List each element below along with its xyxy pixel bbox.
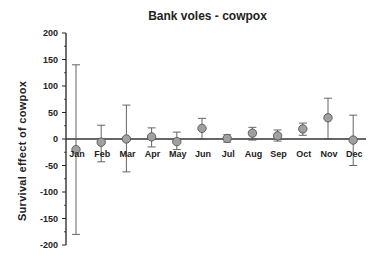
data-point-mar — [122, 105, 130, 172]
x-category-label: Oct — [296, 149, 311, 159]
data-point-nov — [324, 98, 332, 139]
y-tick-label: 0 — [53, 134, 58, 144]
x-category-label: Nov — [320, 149, 337, 159]
y-tick-label: 50 — [48, 108, 58, 118]
x-category-label: Apr — [145, 149, 161, 159]
data-points — [72, 65, 358, 235]
x-category-label: Feb — [94, 149, 111, 159]
y-tick-label: -200 — [40, 240, 58, 250]
x-category-label: May — [169, 149, 187, 159]
data-point-jun — [198, 118, 206, 139]
x-category-label: Sep — [270, 149, 287, 159]
y-axis: 200150100500-50-100-150-200 — [40, 28, 66, 250]
x-category-label: Dec — [346, 149, 363, 159]
x-category-label: Aug — [245, 149, 263, 159]
data-point-may — [173, 132, 181, 149]
x-category-label: Mar — [119, 149, 136, 159]
y-tick-label: -50 — [45, 161, 58, 171]
y-tick-label: -150 — [40, 214, 58, 224]
data-point-aug — [248, 127, 256, 140]
data-point-apr — [147, 128, 155, 147]
y-tick-label: -100 — [40, 187, 58, 197]
x-category-labels: JanFebMarAprMayJunJulAugSepOctNovDec — [69, 149, 362, 159]
y-tick-label: 200 — [43, 28, 58, 38]
data-point-jul — [223, 134, 231, 142]
x-category-label: Jun — [195, 149, 211, 159]
plot-area: 200150100500-50-100-150-200 JanFebMarApr… — [0, 0, 375, 264]
y-tick-label: 150 — [43, 55, 58, 65]
y-tick-label: 100 — [43, 81, 58, 91]
data-point-oct — [299, 123, 307, 135]
x-category-label: Jul — [222, 149, 235, 159]
x-category-label: Jan — [69, 149, 85, 159]
